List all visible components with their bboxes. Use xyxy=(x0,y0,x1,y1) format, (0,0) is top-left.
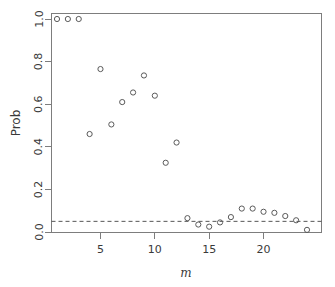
y-tick-label: 0.6 xyxy=(33,95,46,113)
data-point xyxy=(130,90,135,95)
data-point xyxy=(120,99,125,104)
data-point xyxy=(87,131,92,136)
y-tick-label: 0.8 xyxy=(33,53,46,71)
x-axis: 5101520 xyxy=(97,233,271,257)
data-point xyxy=(207,224,212,229)
data-point xyxy=(239,206,244,211)
data-point xyxy=(152,93,157,98)
data-point xyxy=(65,16,70,21)
data-point xyxy=(109,122,114,127)
y-tick-label: 0.4 xyxy=(33,138,46,156)
y-tick-label: 0.0 xyxy=(33,223,46,241)
x-tick-label: 5 xyxy=(97,243,104,256)
data-point xyxy=(163,160,168,165)
y-axis-title: Prob xyxy=(9,110,23,137)
y-axis: 0.00.20.40.60.81.0 xyxy=(33,10,52,241)
data-point xyxy=(174,140,179,145)
x-tick-label: 15 xyxy=(202,243,216,256)
x-tick-label: 20 xyxy=(257,243,271,256)
data-point xyxy=(54,16,59,21)
data-point xyxy=(196,222,201,227)
data-point xyxy=(283,213,288,218)
scatter-plot: 0.00.20.40.60.81.0 5101520 Prob m xyxy=(0,0,335,287)
data-point xyxy=(294,218,299,223)
x-axis-title: m xyxy=(180,266,191,280)
data-point xyxy=(141,73,146,78)
data-point xyxy=(98,66,103,71)
data-points-group xyxy=(54,16,309,232)
plot-frame xyxy=(52,14,322,233)
data-point xyxy=(261,209,266,214)
y-tick-label: 0.2 xyxy=(33,181,46,199)
data-point xyxy=(76,16,81,21)
data-point xyxy=(304,227,309,232)
data-point xyxy=(185,216,190,221)
data-point xyxy=(217,220,222,225)
x-tick-label: 10 xyxy=(148,243,162,256)
data-point xyxy=(228,214,233,219)
chart-container: 0.00.20.40.60.81.0 5101520 Prob m xyxy=(0,0,335,287)
data-point xyxy=(272,210,277,215)
y-tick-label: 1.0 xyxy=(33,10,46,28)
data-point xyxy=(250,206,255,211)
